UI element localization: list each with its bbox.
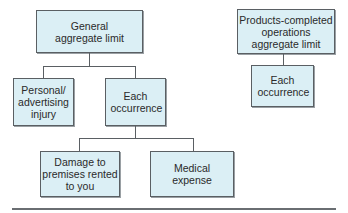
connector-root-bar [43, 66, 136, 67]
medical-expense-label: Medical expense [167, 162, 217, 186]
connector-to-medical [193, 138, 194, 151]
each-occurrence-label: Each occurrence [111, 90, 161, 114]
connector-to-personal [43, 66, 44, 78]
connector-occurrence-down [135, 126, 136, 138]
products-completed-aggregate-box: Products-completed operations aggregate … [237, 9, 335, 54]
personal-advertising-injury-label: Personal/ advertising injury [16, 84, 72, 120]
medical-expense-box: Medical expense [150, 151, 234, 197]
products-completed-aggregate-label: Products-completed operations aggregate … [238, 14, 334, 50]
general-aggregate-limit-label: General aggregate limit [50, 20, 130, 44]
connector-to-each-occurrence [135, 66, 136, 78]
each-occurrence-box: Each occurrence [105, 78, 166, 126]
connector-to-damage [79, 138, 80, 151]
right-each-occurrence-label: Each occurrence [258, 74, 308, 98]
damage-to-premises-box: Damage to premises rented to you [40, 151, 120, 197]
general-aggregate-limit-box: General aggregate limit [36, 10, 143, 53]
connector-products-down [283, 54, 284, 65]
damage-to-premises-label: Damage to premises rented to you [42, 156, 118, 192]
connector-root-down [89, 53, 90, 66]
right-each-occurrence-box: Each occurrence [251, 65, 314, 107]
connector-occurrence-bar [79, 138, 194, 139]
personal-advertising-injury-box: Personal/ advertising injury [13, 78, 74, 126]
bottom-divider [12, 208, 336, 210]
